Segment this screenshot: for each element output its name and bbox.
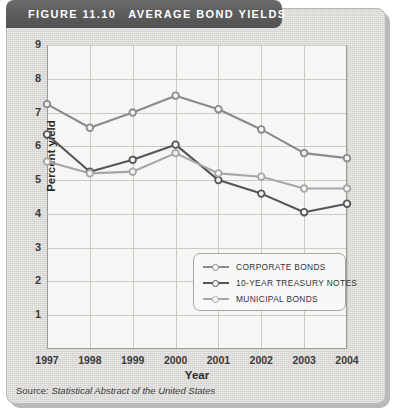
legend-item: 10-YEAR TREASURY NOTES [203,275,345,291]
series-data-point [215,106,222,113]
legend-item: CORPORATE BONDS [203,259,345,275]
series-data-point [301,209,308,216]
figure-container: FIGURE 11.10AVERAGE BOND YIELDS 98765432… [0,0,398,418]
chart-legend: CORPORATE BONDS10-YEAR TREASURY NOTESMUN… [193,253,346,311]
series-data-point [344,155,351,162]
series-data-point [44,131,51,138]
series-data-point [129,109,136,116]
series-data-point [344,185,351,192]
series-data-point [44,158,51,165]
legend-marker-icon [203,278,229,288]
series-data-point [87,170,94,177]
series-data-point [215,177,222,184]
chart-series-layer [0,0,398,418]
series-data-point [172,150,179,157]
series-data-point [129,168,136,175]
series-data-point [129,157,136,164]
legend-item: MUNICIPAL BONDS [203,291,345,307]
series-data-point [258,126,265,133]
series-data-point [215,170,222,177]
series-data-point [301,150,308,157]
legend-item-label: CORPORATE BONDS [236,262,326,272]
legend-marker-icon [203,262,229,272]
series-data-point [258,173,265,180]
legend-item-label: MUNICIPAL BONDS [236,294,318,304]
series-data-point [172,92,179,99]
series-data-point [87,124,94,131]
series-data-point [172,141,179,148]
legend-item-label: 10-YEAR TREASURY NOTES [236,278,357,288]
series-data-point [44,101,51,108]
series-data-point [344,200,351,207]
legend-marker-icon [203,294,229,304]
series-data-point [258,190,265,197]
series-data-point [301,185,308,192]
